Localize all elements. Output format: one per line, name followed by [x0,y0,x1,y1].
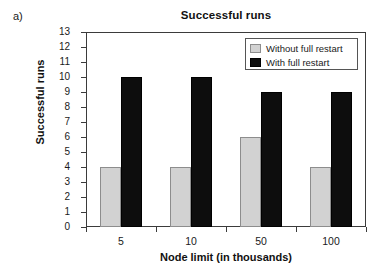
legend-label-series-1: With full restart [266,57,329,68]
y-tick-label: 1 [30,207,70,217]
legend-item-with-full-restart: With full restart [250,56,353,68]
x-tick-mark [156,227,157,232]
chart-title: Successful runs [86,9,366,21]
x-tick-label: 100 [301,235,361,247]
bar-without-full-restart-10 [170,167,191,227]
y-tick-label: 0 [30,222,70,232]
legend: Without full restart With full restart [245,38,358,70]
x-axis-title: Node limit (in thousands) [86,251,366,263]
bar-without-full-restart-5 [100,167,121,227]
x-tick-label: 5 [91,235,151,247]
legend-item-without-full-restart: Without full restart [250,42,353,54]
x-tick-mark [226,227,227,232]
x-tick-label: 10 [161,235,221,247]
figure: a) Successful runs 012345678910111213 Su… [0,0,378,274]
y-tick-label: 13 [30,27,70,37]
y-axis-title: Successful runs [34,37,46,167]
y-tick-label: 2 [30,192,70,202]
legend-swatch-icon-series-0 [250,44,261,53]
bar-with-full-restart-10 [191,77,212,227]
x-tick-label: 50 [231,235,291,247]
x-tick-mark [86,227,87,232]
legend-label-series-0: Without full restart [266,43,343,54]
bar-with-full-restart-100 [331,92,352,227]
x-tick-mark [366,227,367,232]
bar-with-full-restart-5 [121,77,142,227]
bar-with-full-restart-50 [261,92,282,227]
legend-swatch-icon-series-1 [250,58,261,67]
x-tick-mark [296,227,297,232]
bar-without-full-restart-100 [310,167,331,227]
bar-without-full-restart-50 [240,137,261,227]
y-tick-label: 3 [30,177,70,187]
